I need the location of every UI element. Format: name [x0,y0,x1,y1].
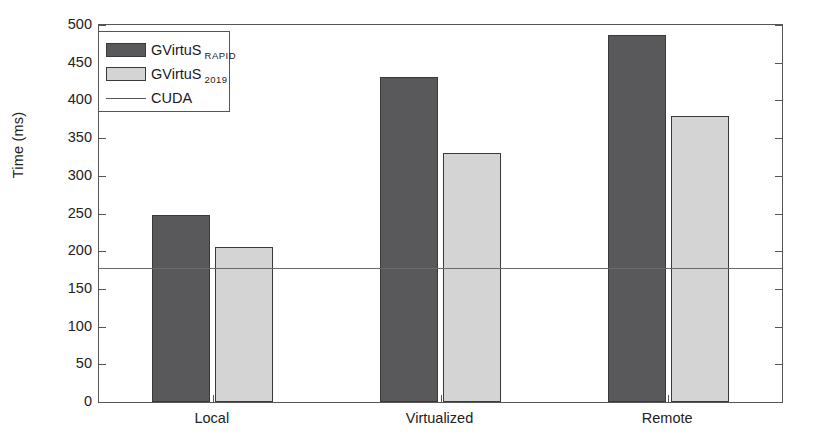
y-axis-tick-right [775,25,782,26]
bar-remote-gvirtus-2019 [671,116,729,402]
legend-swatch-gvirtus-rapid [106,43,146,57]
y-axis-tick-label: 450 [48,54,92,70]
legend-item-cuda: CUDA [106,86,222,110]
legend-item-gvirtus-rapid: GVirtuS RAPID [106,38,222,62]
y-axis-tick-right [775,327,782,328]
y-axis-tick-right [775,176,782,177]
y-axis-tick-label: 200 [48,242,92,258]
bar-virtualized-gvirtus-rapid [380,77,438,402]
y-axis-tick [99,327,106,328]
y-axis-tick-label: 50 [48,355,92,371]
cuda-reference-line [99,268,782,269]
y-axis-tick-right [775,138,782,139]
y-axis-tick [99,402,106,403]
y-axis-tick [99,364,106,365]
y-axis-tick-label: 250 [48,205,92,221]
x-axis-tick [441,395,442,402]
bar-local-gvirtus-rapid [152,215,210,402]
y-axis-tick-right [775,364,782,365]
x-axis-tick-label: Virtualized [406,410,473,426]
y-axis-tick-label: 300 [48,167,92,183]
y-axis-tick-label: 350 [48,129,92,145]
x-axis-tick [213,395,214,402]
y-axis-tick-right [775,63,782,64]
y-axis-tick [99,214,106,215]
chart-legend: GVirtuS RAPID GVirtuS 2019 CUDA [98,31,230,112]
legend-swatch-gvirtus-2019 [106,67,146,81]
bar-virtualized-gvirtus-2019 [443,153,501,402]
y-axis-tick-labels: 050100150200250300350400450500 [44,24,92,403]
legend-line-cuda [106,91,146,105]
x-axis-tick-label: Local [194,410,229,426]
y-axis-tick [99,25,106,26]
x-axis-tick [668,395,669,402]
y-axis-tick-right [775,289,782,290]
x-axis-tick-label: Remote [642,410,693,426]
y-axis-tick-label: 0 [48,393,92,409]
legend-label-cuda: CUDA [151,91,192,106]
bar-remote-gvirtus-rapid [608,35,666,402]
y-axis-tick [99,289,106,290]
legend-label-gvirtus-rapid: GVirtuS [151,43,202,58]
bar-local-gvirtus-2019 [215,247,273,402]
legend-item-gvirtus-2019: GVirtuS 2019 [106,62,222,86]
y-axis-tick-right [775,100,782,101]
bar-chart-figure: Time (ms) 050100150200250300350400450500… [0,0,824,445]
y-axis-tick-right [775,402,782,403]
y-axis-tick-label: 100 [48,318,92,334]
y-axis-tick-right [775,251,782,252]
legend-sublabel-rapid: RAPID [205,50,237,62]
y-axis-tick-label: 500 [48,16,92,32]
y-axis-tick [99,251,106,252]
y-axis-label: Time (ms) [10,85,26,205]
legend-label-gvirtus-2019: GVirtuS [151,67,202,82]
y-axis-tick [99,176,106,177]
y-axis-tick-right [775,214,782,215]
y-axis-tick-label: 400 [48,91,92,107]
y-axis-tick-label: 150 [48,280,92,296]
legend-sublabel-2019: 2019 [205,74,228,86]
y-axis-tick [99,138,106,139]
